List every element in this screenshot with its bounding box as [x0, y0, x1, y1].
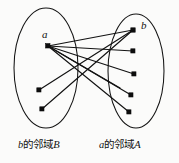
node-b [131, 28, 135, 32]
node-a [46, 44, 50, 48]
neighborhood-diagram-figure: a b b的邻域B a的邻域A [0, 0, 179, 163]
caption-left-suffix: B [53, 139, 59, 150]
node-right-2 [131, 49, 135, 53]
node-label-b: b [141, 20, 147, 31]
caption-left-set: b的邻域B [18, 139, 60, 151]
node-left-3 [40, 107, 44, 111]
node-right-3 [132, 72, 136, 76]
edge-a-r5 [48, 46, 129, 112]
caption-right-suffix: A [134, 139, 140, 150]
node-right-4 [129, 93, 133, 97]
caption-left-middle: 的邻域 [23, 138, 53, 150]
node-right-5 [127, 110, 131, 114]
left-set-ellipse [14, 8, 78, 128]
caption-right-middle: 的邻域 [104, 138, 134, 150]
node-label-a: a [42, 29, 48, 40]
right-set-ellipse [108, 14, 164, 128]
node-left-2 [37, 88, 41, 92]
edge-group [39, 30, 134, 112]
caption-right-set: a的邻域A [99, 139, 141, 151]
